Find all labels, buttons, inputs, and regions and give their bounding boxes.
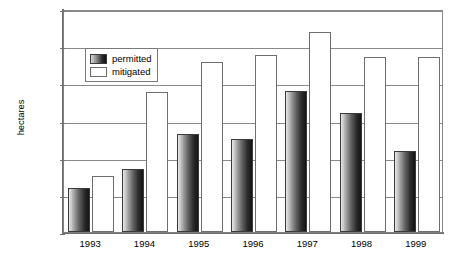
bar-permitted xyxy=(122,169,144,232)
bar-mitigated xyxy=(309,32,331,232)
figure-caption xyxy=(228,264,458,272)
legend-label-permitted: permitted xyxy=(112,53,152,64)
chart-legend: permitted mitigated xyxy=(85,48,158,82)
legend-swatch-permitted-icon xyxy=(90,54,107,64)
x-tick-label: 1999 xyxy=(405,238,426,249)
y-axis-title: hectares xyxy=(15,78,26,158)
y-tick-mark xyxy=(60,123,65,124)
x-tick-label: 1995 xyxy=(188,238,209,249)
y-tick-mark xyxy=(60,85,65,86)
x-tick-label: 1996 xyxy=(242,238,263,249)
bar-mitigated xyxy=(255,55,277,232)
bar-mitigated xyxy=(364,57,386,232)
legend-swatch-mitigated-icon xyxy=(90,67,107,77)
bar-permitted xyxy=(340,113,362,232)
x-tick-label: 1994 xyxy=(134,238,155,249)
bar-mitigated xyxy=(92,176,114,232)
bar-permitted xyxy=(177,134,199,232)
bar-permitted xyxy=(68,188,90,232)
bar-mitigated xyxy=(418,57,440,232)
legend-item-permitted: permitted xyxy=(90,52,152,65)
x-tick-label: 1993 xyxy=(80,238,101,249)
x-tick-label: 1998 xyxy=(351,238,372,249)
plot-area xyxy=(63,10,443,233)
bar-permitted xyxy=(285,91,307,232)
y-tick-mark xyxy=(60,197,65,198)
bar-mitigated xyxy=(201,62,223,232)
bar-chart-figure: hectares permitted mitigated 04,0008,000… xyxy=(0,0,458,272)
bar-permitted xyxy=(394,151,416,232)
legend-item-mitigated: mitigated xyxy=(90,65,152,78)
y-tick-mark xyxy=(60,11,65,12)
bar-permitted xyxy=(231,139,253,232)
bar-mitigated xyxy=(146,92,168,232)
y-tick-mark xyxy=(60,234,65,235)
y-tick-mark xyxy=(60,160,65,161)
legend-label-mitigated: mitigated xyxy=(112,66,151,77)
x-tick-label: 1997 xyxy=(297,238,318,249)
gridline xyxy=(64,11,442,12)
y-tick-mark xyxy=(60,48,65,49)
